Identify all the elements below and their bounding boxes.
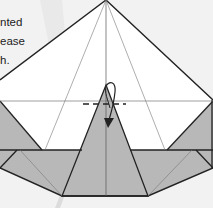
origami-diagram <box>0 0 213 208</box>
